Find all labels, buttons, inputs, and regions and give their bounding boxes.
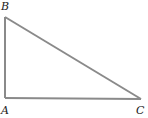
- edge-ac: [5, 98, 141, 99]
- triangle-diagram: B A C: [0, 0, 148, 118]
- vertex-label-b: B: [1, 1, 9, 12]
- edge-bc: [5, 17, 141, 99]
- vertex-label-c: C: [136, 105, 144, 116]
- vertex-label-a: A: [1, 105, 9, 116]
- triangle-figure: [0, 0, 148, 118]
